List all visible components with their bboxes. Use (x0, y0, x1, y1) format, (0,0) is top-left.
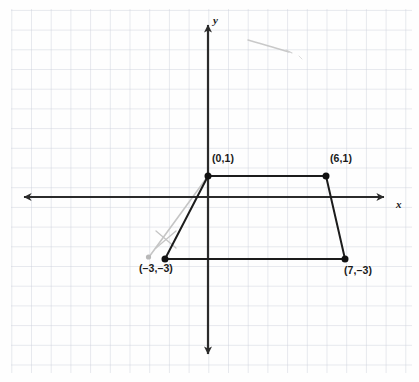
label-neg3-neg3: (–3,–3) (139, 262, 173, 274)
label-6-1: (6,1) (330, 152, 352, 164)
grid-lines (11, 9, 412, 373)
label-0-1: (0,1) (212, 152, 234, 164)
point-6-1 (323, 173, 330, 180)
x-axis-label: x (396, 198, 402, 210)
label-7-neg3: (7,–3) (344, 264, 372, 276)
y-axis-label: y (213, 14, 218, 26)
coordinate-plane-figure (0, 0, 419, 382)
point-0-1 (205, 173, 212, 180)
graph-paper-page: y x (0,1) (6,1) (7,–3) (–3,–3) (0, 0, 419, 382)
point-7-neg3 (342, 256, 349, 263)
